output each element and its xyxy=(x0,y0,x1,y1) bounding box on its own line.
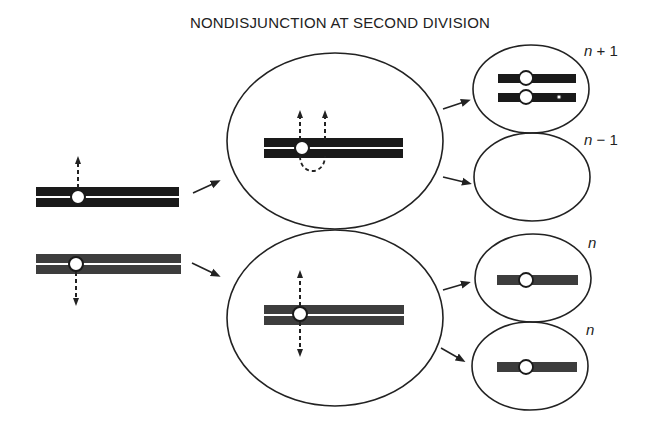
arrow-icon xyxy=(441,348,462,360)
centromere-icon xyxy=(519,360,533,374)
arrow-icon xyxy=(192,263,217,275)
label-n-minus-1: n − 1 xyxy=(584,131,618,148)
gamete-n-b xyxy=(472,322,588,410)
cell-nondisjunction xyxy=(227,53,443,229)
centromere-icon xyxy=(295,141,309,155)
arrow-icon xyxy=(443,101,467,109)
gamete-n-a xyxy=(475,234,591,322)
parent-chromosome-black xyxy=(36,160,179,207)
centromere-icon xyxy=(69,257,83,271)
label-n-gamete-4: n xyxy=(586,321,594,338)
label-n-gamete-3: n xyxy=(588,234,596,251)
arrow-icon xyxy=(443,283,467,290)
centromere-icon xyxy=(293,307,307,321)
centromere-icon xyxy=(519,273,533,287)
arrow-icon xyxy=(443,177,468,183)
centromere-icon xyxy=(71,190,85,204)
gamete-n-plus-1 xyxy=(473,45,589,133)
gamete-n-minus-1 xyxy=(474,133,590,221)
parent-chromosome-gray xyxy=(36,254,181,302)
centromere-icon xyxy=(519,71,533,85)
arrow-icon xyxy=(193,182,217,193)
cell-normal-division xyxy=(227,230,443,406)
nondisjunction-diagram xyxy=(0,0,663,425)
centromere-icon xyxy=(519,90,533,104)
label-n-plus-1: n + 1 xyxy=(584,42,618,59)
